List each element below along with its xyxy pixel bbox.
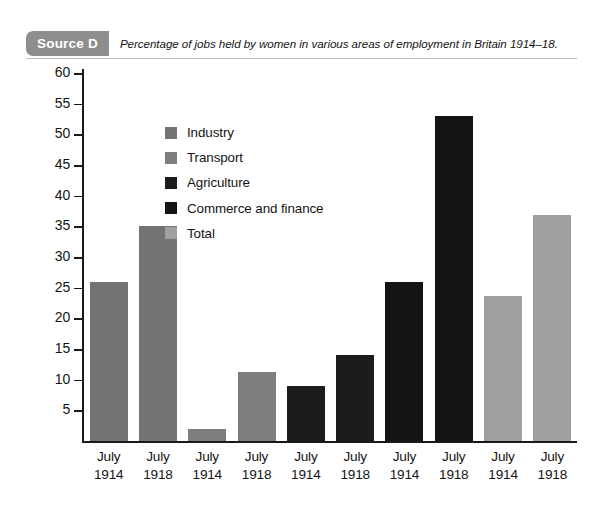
legend-label: Commerce and finance bbox=[187, 201, 323, 216]
y-axis-tick-mark bbox=[74, 288, 82, 290]
x-axis-label: July1914 bbox=[380, 448, 429, 483]
legend-item-agriculture: Agriculture bbox=[165, 170, 355, 195]
source-header: Source D Percentage of jobs held by wome… bbox=[26, 31, 577, 56]
legend-swatch-industry bbox=[165, 127, 177, 139]
legend-swatch-total bbox=[165, 227, 177, 239]
y-axis-tick-label: 55 bbox=[55, 95, 70, 111]
header-divider bbox=[26, 58, 577, 59]
x-axis-label-month: July bbox=[133, 448, 182, 466]
y-axis-tick-mark bbox=[74, 73, 82, 75]
x-axis-label-year: 1918 bbox=[528, 466, 577, 484]
x-axis-label: July1918 bbox=[331, 448, 380, 483]
x-axis-label-year: 1914 bbox=[281, 466, 330, 484]
legend-label: Agriculture bbox=[187, 175, 250, 190]
bar-chart: 51015202530354045505560 IndustryTranspor… bbox=[26, 64, 577, 484]
bar-agriculture-july-1918 bbox=[336, 355, 374, 441]
x-axis-label-year: 1918 bbox=[232, 466, 281, 484]
y-axis-tick-label: 10 bbox=[55, 371, 70, 387]
y-axis-tick-mark bbox=[74, 226, 82, 228]
x-axis-labels: July1914July1918July1914July1918July1914… bbox=[84, 448, 577, 492]
legend-item-total: Total bbox=[165, 221, 355, 246]
legend-swatch-transport bbox=[165, 152, 177, 164]
y-axis-tick-label: 50 bbox=[55, 125, 70, 141]
y-axis-tick-mark bbox=[74, 318, 82, 320]
x-axis-label-year: 1914 bbox=[183, 466, 232, 484]
bar-commerce-and-finance-july-1914 bbox=[385, 282, 423, 441]
x-axis-label: July1914 bbox=[84, 448, 133, 483]
x-axis-label-year: 1918 bbox=[429, 466, 478, 484]
bar-total-july-1914 bbox=[484, 296, 522, 441]
y-axis-tick-label: 15 bbox=[55, 340, 70, 356]
y-axis-tick-label: 35 bbox=[55, 217, 70, 233]
x-axis-label-month: July bbox=[331, 448, 380, 466]
bar-industry-july-1914 bbox=[90, 282, 128, 441]
y-axis-tick-mark bbox=[74, 257, 82, 259]
x-axis-label-month: July bbox=[478, 448, 527, 466]
source-caption: Percentage of jobs held by women in vari… bbox=[109, 31, 577, 56]
source-badge: Source D bbox=[26, 31, 109, 56]
y-axis-tick-mark bbox=[74, 349, 82, 351]
x-axis-label-year: 1918 bbox=[133, 466, 182, 484]
x-axis-label-month: July bbox=[84, 448, 133, 466]
y-axis-tick-mark bbox=[74, 134, 82, 136]
bar-industry-july-1918 bbox=[139, 226, 177, 441]
chart-legend: IndustryTransportAgricultureCommerce and… bbox=[165, 120, 355, 246]
legend-item-transport: Transport bbox=[165, 145, 355, 170]
legend-item-commerce-and-finance: Commerce and finance bbox=[165, 196, 355, 221]
y-axis-tick-label: 25 bbox=[55, 279, 70, 295]
legend-label: Industry bbox=[187, 125, 234, 140]
x-axis-label-month: July bbox=[380, 448, 429, 466]
bar-total-july-1918 bbox=[533, 215, 571, 441]
x-axis-label: July1918 bbox=[429, 448, 478, 483]
x-axis-line bbox=[82, 441, 577, 443]
y-axis-tick-label: 30 bbox=[55, 248, 70, 264]
x-axis-label: July1914 bbox=[183, 448, 232, 483]
x-axis-label: July1918 bbox=[232, 448, 281, 483]
x-axis-label: July1918 bbox=[133, 448, 182, 483]
bar-agriculture-july-1914 bbox=[287, 386, 325, 441]
y-axis-tick-label: 20 bbox=[55, 309, 70, 325]
x-axis-label: July1914 bbox=[281, 448, 330, 483]
y-axis-tick-mark bbox=[74, 104, 82, 106]
x-axis-label-year: 1914 bbox=[84, 466, 133, 484]
legend-item-industry: Industry bbox=[165, 120, 355, 145]
legend-label: Transport bbox=[187, 150, 243, 165]
bar-transport-july-1918 bbox=[238, 372, 276, 441]
x-axis-label: July1914 bbox=[478, 448, 527, 483]
y-axis-tick-label: 5 bbox=[62, 401, 70, 417]
legend-label: Total bbox=[187, 226, 215, 241]
y-axis-tick-mark bbox=[74, 380, 82, 382]
x-axis-label-month: July bbox=[429, 448, 478, 466]
x-axis-label-year: 1914 bbox=[478, 466, 527, 484]
y-axis-tick-label: 45 bbox=[55, 156, 70, 172]
bar-transport-july-1914 bbox=[188, 429, 226, 441]
x-axis-label: July1918 bbox=[528, 448, 577, 483]
x-axis-label-month: July bbox=[281, 448, 330, 466]
legend-swatch-commerce bbox=[165, 202, 177, 214]
x-axis-label-year: 1918 bbox=[331, 466, 380, 484]
x-axis-label-year: 1914 bbox=[380, 466, 429, 484]
bar-commerce-and-finance-july-1918 bbox=[435, 116, 473, 441]
x-axis-label-month: July bbox=[183, 448, 232, 466]
legend-swatch-agriculture bbox=[165, 177, 177, 189]
y-axis-tick-mark bbox=[74, 165, 82, 167]
x-axis-label-month: July bbox=[528, 448, 577, 466]
y-axis-tick-mark bbox=[74, 410, 82, 412]
y-axis-tick-label: 40 bbox=[55, 187, 70, 203]
y-axis-tick-mark bbox=[74, 196, 82, 198]
y-axis-tick-label: 60 bbox=[55, 64, 70, 80]
x-axis-label-month: July bbox=[232, 448, 281, 466]
